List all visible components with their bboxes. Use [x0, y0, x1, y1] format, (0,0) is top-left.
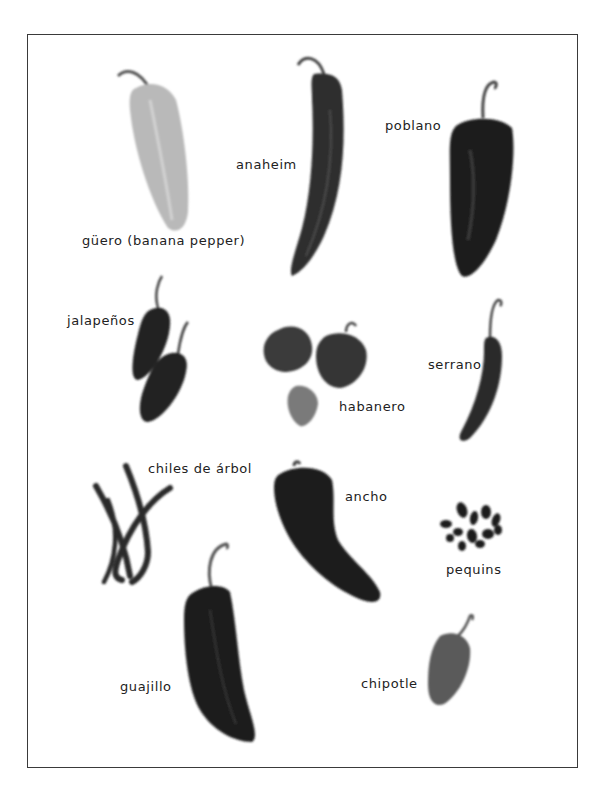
pepper-illustrations [0, 0, 613, 796]
jalapenos-pepper-image [133, 276, 189, 422]
label-guero: güero (banana pepper) [82, 234, 245, 247]
poblano-pepper-image [450, 82, 514, 277]
chiles-de-arbol-pepper-image [96, 466, 170, 582]
label-ancho: ancho [345, 490, 388, 503]
pequins-pepper-image [440, 501, 502, 551]
chipotle-pepper-image [428, 615, 473, 705]
guero-pepper-image [118, 72, 188, 231]
label-guajillo: guajillo [120, 680, 172, 693]
label-pequins: pequins [446, 563, 502, 576]
label-chiles-de-arbol: chiles de árbol [148, 462, 252, 475]
label-anaheim: anaheim [236, 158, 297, 171]
label-poblano: poblano [385, 119, 441, 132]
label-habanero: habanero [339, 400, 405, 413]
anaheim-pepper-image [291, 58, 344, 276]
guajillo-pepper-image [184, 544, 255, 742]
label-chipotle: chipotle [361, 677, 418, 690]
ancho-pepper-image [274, 462, 380, 602]
label-serrano: serrano [428, 358, 482, 371]
label-jalapenos: jalapeños [67, 314, 135, 327]
